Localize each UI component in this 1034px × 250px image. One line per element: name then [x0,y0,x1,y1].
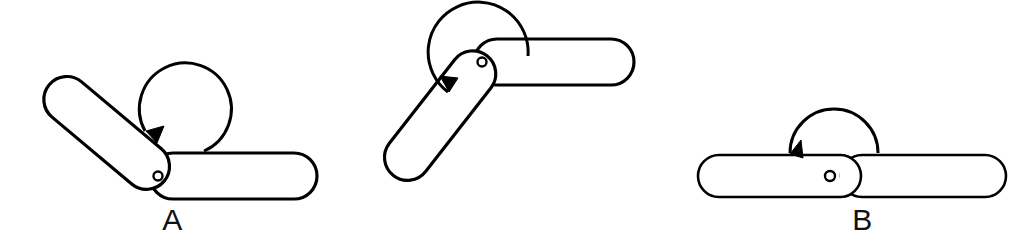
panel-c-fixed-bar [841,155,1006,197]
figure-root: A B [0,0,1034,250]
panel-label-a: A [0,205,345,235]
panel-c-moving-bar [698,155,861,197]
panel-b-fixed-bar [474,39,634,85]
panel-c-diagram [689,0,1034,250]
panel-a-pivot-icon [154,172,163,181]
panel-a: A [0,0,345,250]
panel-b-pivot-icon [478,58,487,67]
panel-c: C [689,0,1034,250]
panel-a-rotation-arrow-icon [139,63,231,151]
panel-c-pivot-icon [825,171,835,181]
panel-b-diagram [345,0,690,250]
panel-c-rotation-arrow-icon [790,109,878,158]
panel-b: B [345,0,690,250]
panel-a-fixed-bar [150,153,317,199]
